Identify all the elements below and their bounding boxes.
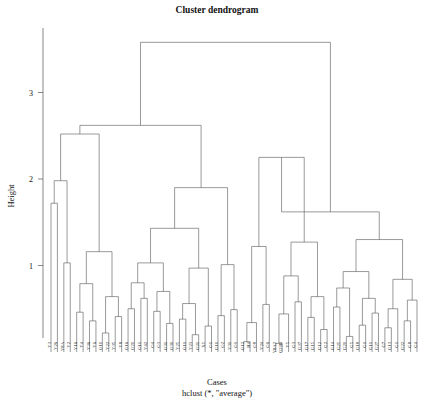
leaf-label: G7 bbox=[381, 341, 386, 347]
page-title: Cluster dendrogram bbox=[176, 5, 259, 15]
leaf-label: Y3 bbox=[47, 341, 52, 347]
y-axis-label: Height bbox=[6, 184, 16, 208]
leaf-label: Y16 bbox=[73, 341, 78, 350]
x-axis-sublabel: hclust (*, "average") bbox=[182, 388, 252, 398]
leaf-label: O1 bbox=[208, 341, 213, 347]
leaf-label: H4 bbox=[246, 341, 251, 347]
leaf-label: G14 bbox=[330, 341, 335, 350]
leaf-label: Y23 bbox=[188, 341, 193, 350]
leaf-label: Y25 bbox=[175, 341, 180, 350]
leaf-label: Y39 bbox=[227, 341, 232, 350]
y-tick-label: 2 bbox=[29, 175, 33, 184]
leaf-label: G20 bbox=[342, 341, 347, 350]
leaf-label: G10 bbox=[214, 341, 219, 350]
leaf-label: Y6 bbox=[92, 341, 97, 347]
leaf-label: G12 bbox=[317, 341, 322, 350]
leaf-label: X5 bbox=[201, 341, 206, 347]
leaf-label: G3 bbox=[291, 341, 296, 347]
leaf-label: Y24 bbox=[259, 341, 264, 350]
leaf-label: O20 bbox=[130, 341, 135, 350]
leaf-label: G1 bbox=[394, 341, 399, 347]
leaf-label: Y26 bbox=[53, 341, 58, 350]
leaf-label: O9 bbox=[233, 341, 238, 347]
leaf-label: G8 bbox=[407, 341, 412, 347]
leaf-label: G25 bbox=[336, 341, 341, 350]
y-tick-label: 3 bbox=[29, 89, 33, 98]
leaf-label: O2 bbox=[220, 341, 225, 347]
leaf-label: Y42 bbox=[143, 341, 148, 350]
leaf-label: Y8A bbox=[60, 341, 65, 351]
cluster-dendrogram-plot: Cluster dendrogram 123 Height Y3Y26Y8AY2… bbox=[0, 0, 435, 405]
leaf-label: O10 bbox=[98, 341, 103, 350]
leaf-label: G17 bbox=[304, 341, 309, 350]
leaf-label: Y35 bbox=[111, 341, 116, 350]
leaf-label: G9 bbox=[362, 341, 367, 347]
leaf-label: O11 bbox=[137, 341, 142, 349]
leaf-label: Y4 bbox=[79, 341, 84, 347]
leaf-label: O19 bbox=[182, 341, 187, 350]
leaf-label: G13 bbox=[387, 341, 392, 350]
leaf-label: O21B bbox=[278, 342, 283, 353]
leaf-label: G11 bbox=[368, 341, 373, 349]
leaf-label: O4 bbox=[150, 341, 155, 347]
x-axis-label: Cases bbox=[207, 377, 227, 387]
leaf-label: Y8 bbox=[118, 341, 123, 347]
leaf-label: O30 bbox=[169, 341, 174, 350]
y-tick-label: 1 bbox=[29, 262, 33, 271]
leaf-label: O12 bbox=[240, 341, 245, 350]
leaf-label: G2 bbox=[323, 341, 328, 347]
leaf-label: O21 bbox=[195, 341, 200, 350]
leaf-label: G27 bbox=[374, 341, 379, 350]
leaf-label: Y22 bbox=[105, 341, 110, 350]
leaf-label: Y5 bbox=[285, 341, 290, 347]
leaf-label: G22 bbox=[400, 341, 405, 350]
leaf-label: Y36 bbox=[86, 341, 91, 350]
leaf-label: O16 bbox=[124, 341, 129, 350]
leaf-label: O8 bbox=[252, 341, 257, 347]
leaf-label: O31 bbox=[163, 341, 168, 350]
leaf-label: Y2 bbox=[66, 341, 71, 347]
leaf-label: Y8A2 bbox=[272, 341, 277, 353]
leaf-label: G5 bbox=[349, 341, 354, 347]
leaf-label: O3 bbox=[156, 341, 161, 347]
leaf-label: G15 bbox=[310, 341, 315, 350]
leaf-label: G37 bbox=[297, 341, 302, 350]
leaf-label: O6 bbox=[265, 341, 270, 347]
leaf-label: G18 bbox=[355, 341, 360, 350]
leaf-label: G4 bbox=[413, 341, 418, 347]
